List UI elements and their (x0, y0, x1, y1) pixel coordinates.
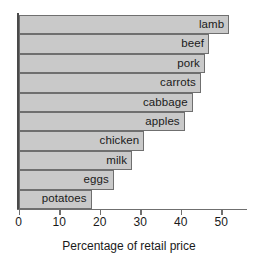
bar-label: potatoes (42, 193, 91, 205)
x-tick-label: 10 (53, 215, 66, 229)
bar-row: pork (19, 54, 247, 73)
x-tick-mark (140, 210, 141, 215)
bar-row: potatoes (19, 190, 247, 209)
y-axis-line (17, 13, 19, 210)
bar[interactable]: cabbage (19, 93, 193, 112)
bar-label: carrots (160, 77, 200, 89)
bar-row: apples (19, 112, 247, 131)
x-tick-mark (59, 210, 60, 215)
bar-label: lamb (199, 19, 228, 31)
bar[interactable]: beef (19, 34, 209, 53)
bar[interactable]: lamb (19, 15, 230, 34)
x-tick-mark (19, 210, 20, 215)
bar-label: apples (145, 116, 184, 128)
plot-area: lambbeefporkcarrotscabbageappleschickenm… (19, 15, 247, 209)
bar[interactable]: chicken (19, 131, 145, 150)
bar-label: pork (177, 58, 204, 70)
bar[interactable]: apples (19, 112, 185, 131)
bar-label: beef (181, 38, 208, 50)
x-tick-label: 20 (93, 215, 106, 229)
bar[interactable]: milk (19, 151, 132, 170)
bar[interactable]: eggs (19, 170, 114, 189)
bar-label: milk (106, 155, 131, 167)
bar-row: cabbage (19, 93, 247, 112)
bar-row: eggs (19, 170, 247, 189)
bar-row: lamb (19, 15, 247, 34)
x-tick-mark (221, 210, 222, 215)
bar-label: cabbage (143, 97, 192, 109)
bar[interactable]: pork (19, 54, 205, 73)
x-tick-mark (181, 210, 182, 215)
x-tick-mark (100, 210, 101, 215)
x-tick-label: 0 (15, 215, 22, 229)
bar-label: chicken (100, 135, 144, 147)
x-tick-label: 30 (134, 215, 147, 229)
bar-row: milk (19, 151, 247, 170)
bar-chart: lambbeefporkcarrotscabbageappleschickenm… (0, 0, 258, 265)
bar[interactable]: carrots (19, 73, 201, 92)
x-axis-title: Percentage of retail price (0, 239, 258, 253)
bar-row: carrots (19, 73, 247, 92)
x-axis-line (17, 209, 247, 211)
bar-label: eggs (84, 174, 113, 186)
bar-row: chicken (19, 131, 247, 150)
bar[interactable]: potatoes (19, 190, 92, 209)
bar-row: beef (19, 34, 247, 53)
x-tick-label: 50 (215, 215, 228, 229)
x-tick-label: 40 (174, 215, 187, 229)
